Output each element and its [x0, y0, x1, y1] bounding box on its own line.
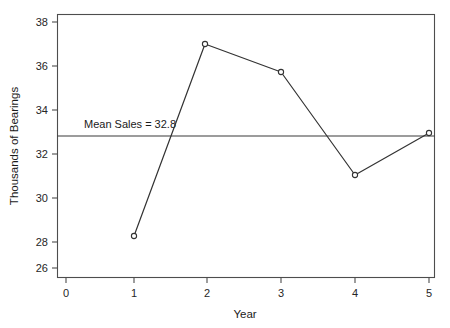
x-tick-label: 5: [426, 287, 432, 299]
data-point: [131, 233, 136, 238]
data-point: [352, 172, 357, 177]
x-tick-label: 3: [278, 287, 284, 299]
data-point: [426, 130, 431, 135]
data-markers: [131, 41, 431, 238]
y-tick-label: 30: [36, 192, 48, 204]
y-tick-label: 36: [36, 60, 48, 72]
x-tick-label: 0: [63, 287, 69, 299]
y-axis-title: Thousands of Bearings: [8, 87, 20, 206]
y-tick-label: 34: [36, 104, 48, 116]
x-axis-ticks: 0 1 2 3 4 5: [63, 278, 432, 300]
x-tick-label: 4: [352, 287, 358, 299]
x-axis-title: Year: [233, 308, 256, 320]
y-tick-label: 32: [36, 148, 48, 160]
y-axis-ticks: 38 36 34 32 30 28 26: [36, 16, 58, 274]
y-tick-label: 26: [36, 262, 48, 274]
x-tick-label: 1: [131, 287, 137, 299]
x-tick-label: 2: [204, 287, 210, 299]
mean-line-label: Mean Sales = 32.8: [84, 118, 176, 130]
plot-frame: [58, 15, 435, 278]
chart-container: 38 36 34 32 30 28 26 0 1 2 3 4: [0, 0, 450, 328]
data-point: [202, 41, 207, 46]
y-tick-label: 28: [36, 236, 48, 248]
y-tick-label: 38: [36, 16, 48, 28]
line-chart: 38 36 34 32 30 28 26 0 1 2 3 4: [0, 0, 450, 328]
data-point: [278, 69, 283, 74]
